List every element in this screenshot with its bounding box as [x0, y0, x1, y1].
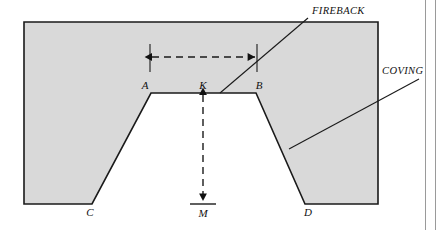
point-label-c: C	[86, 206, 94, 218]
point-label-k: K	[198, 79, 207, 91]
hearth-section-outline	[24, 22, 378, 204]
callout-label-coving: COVING	[382, 65, 423, 76]
point-label-d: D	[303, 206, 312, 218]
fireplace-section-diagram: A K B C D M FIREBACK COVING	[0, 0, 447, 230]
point-label-a: A	[141, 79, 149, 91]
figure-container: A K B C D M FIREBACK COVING	[0, 0, 447, 230]
callout-label-fireback: FIREBACK	[311, 5, 365, 16]
point-label-m: M	[197, 207, 208, 219]
point-label-b: B	[256, 79, 263, 91]
